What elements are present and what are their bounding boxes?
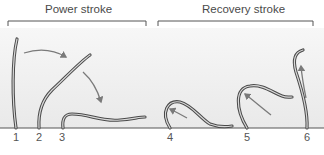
position-label-6: 6 bbox=[304, 131, 310, 143]
position-label-3: 3 bbox=[59, 131, 65, 143]
position-label-2: 2 bbox=[36, 131, 42, 143]
recovery-stroke-bracket bbox=[158, 21, 313, 26]
panel-background bbox=[0, 28, 324, 128]
position-label-4: 4 bbox=[167, 131, 173, 143]
power-stroke-bracket bbox=[8, 21, 146, 26]
recovery-stroke-label: Recovery stroke bbox=[202, 3, 285, 15]
position-label-1: 1 bbox=[13, 131, 19, 143]
cilia-stroke-diagram bbox=[0, 0, 324, 155]
position-label-5: 5 bbox=[244, 131, 250, 143]
power-stroke-label: Power stroke bbox=[45, 3, 112, 15]
